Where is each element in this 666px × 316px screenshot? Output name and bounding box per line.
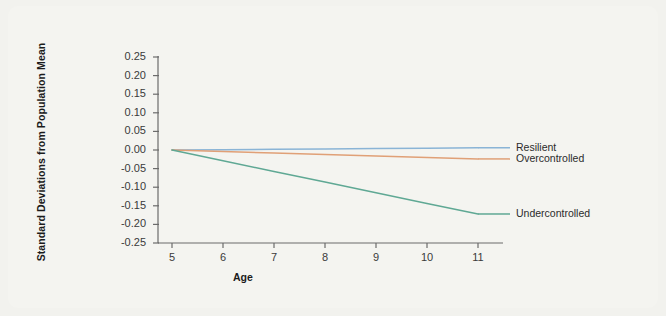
- series-line-undercontrolled: [172, 150, 478, 214]
- y-axis-tick-label: 0.10: [96, 106, 146, 118]
- series-label-overcontrolled: Overcontrolled: [516, 152, 584, 164]
- x-axis-tick-label: 8: [310, 251, 340, 263]
- x-axis-tick-label: 7: [259, 251, 289, 263]
- line-chart: Standard Deviations from Population Mean…: [8, 6, 658, 308]
- y-axis-tick-label: -0.15: [96, 199, 146, 211]
- y-axis-tick-label: 0.00: [96, 143, 146, 155]
- series-line-overcontrolled: [172, 150, 478, 159]
- y-axis-tick-label: 0.05: [96, 124, 146, 136]
- chart-card: Standard Deviations from Population Mean…: [8, 6, 658, 308]
- y-axis-tick-label: 0.20: [96, 69, 146, 81]
- x-axis-tick-label: 6: [208, 251, 238, 263]
- y-axis-tick-label: -0.20: [96, 217, 146, 229]
- x-axis-tick-label: 11: [463, 251, 493, 263]
- series-line-resilient: [172, 148, 478, 150]
- x-axis-tick-label: 10: [412, 251, 442, 263]
- y-axis-tick-label: -0.25: [96, 236, 146, 248]
- x-axis-tick-label: 9: [361, 251, 391, 263]
- y-axis-tick-label: -0.10: [96, 180, 146, 192]
- series-label-undercontrolled: Undercontrolled: [516, 207, 590, 219]
- y-axis-tick-label: 0.15: [96, 87, 146, 99]
- y-axis-tick-label: 0.25: [96, 50, 146, 62]
- y-axis-tick-label: -0.05: [96, 162, 146, 174]
- x-axis-tick-label: 5: [157, 251, 187, 263]
